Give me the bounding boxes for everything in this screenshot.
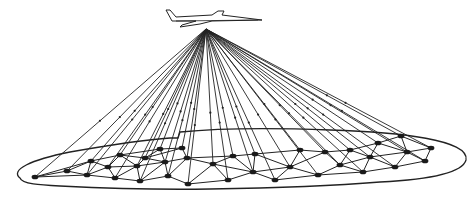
diagram-canvas — [0, 0, 473, 200]
sensor-network-diagram — [0, 0, 473, 200]
mesh-link — [325, 152, 340, 165]
ray-marker — [219, 122, 221, 124]
mesh-link — [363, 157, 370, 172]
sensor-node — [404, 150, 411, 155]
ray-marker — [234, 117, 236, 119]
sensor-node — [105, 165, 112, 170]
aircraft-fuselage — [166, 10, 262, 27]
sensor-node — [165, 174, 172, 179]
sensor-node — [88, 159, 95, 164]
signal-ray — [206, 29, 425, 161]
ray-marker — [144, 113, 146, 115]
sensor-node — [297, 148, 304, 153]
sensor-node — [337, 163, 344, 168]
ray-marker — [179, 110, 181, 112]
ray-marker — [119, 116, 121, 118]
sensor-node — [250, 170, 257, 175]
sensor-node — [179, 146, 186, 151]
ray-marker — [167, 108, 169, 110]
signal-ray — [206, 29, 290, 167]
sensor-node — [142, 156, 149, 161]
sensor-node — [64, 169, 71, 174]
aircraft-icon — [166, 10, 262, 27]
ray-marker — [235, 105, 237, 107]
mesh-link — [87, 175, 115, 178]
mesh-link — [407, 148, 431, 152]
ray-marker — [344, 102, 346, 104]
sensor-node — [428, 146, 435, 151]
ray-marker — [274, 118, 276, 120]
ray-marker — [322, 113, 324, 115]
ray-marker — [288, 112, 290, 114]
mesh-link — [188, 180, 228, 184]
ray-marker — [341, 110, 343, 112]
ray-marker — [248, 122, 250, 124]
sensor-node — [375, 141, 382, 146]
sensor-node — [322, 150, 329, 155]
ray-marker — [176, 102, 178, 104]
ray-marker — [326, 94, 328, 96]
signal-ray — [165, 29, 206, 162]
ray-marker — [209, 112, 211, 114]
sensor-node — [112, 176, 119, 181]
mesh-link — [187, 156, 233, 158]
sensor-node — [360, 170, 367, 175]
sensor-node — [117, 153, 124, 158]
sensor-node — [157, 147, 164, 152]
sensor-node — [315, 173, 322, 178]
mesh-link — [275, 175, 318, 180]
sensor-node — [32, 175, 39, 180]
mesh-link — [378, 136, 401, 143]
sensor-node — [367, 155, 374, 160]
signal-ray — [206, 29, 401, 136]
ray-marker — [307, 107, 309, 109]
ray-marker — [294, 103, 296, 105]
mesh-link — [120, 149, 160, 155]
sensor-node — [422, 159, 429, 164]
ray-marker — [312, 99, 314, 101]
sensor-node — [252, 152, 259, 157]
ray-marker — [190, 102, 192, 104]
sensor-node — [230, 154, 237, 159]
signal-ray — [206, 29, 340, 165]
mesh-link — [370, 157, 395, 167]
sensor-node — [84, 173, 91, 178]
mesh-link — [300, 150, 325, 152]
ray-marker — [131, 118, 133, 120]
sensor-node — [185, 182, 192, 187]
sensor-node — [398, 134, 405, 139]
ray-marker — [302, 117, 304, 119]
mesh-link — [108, 166, 137, 167]
ray-marker — [134, 110, 136, 112]
sensor-node — [392, 165, 399, 170]
mesh-link — [228, 172, 253, 180]
signal-ray — [206, 29, 370, 157]
mesh-link — [67, 161, 91, 171]
ray-marker — [164, 122, 166, 124]
sensor-node — [210, 162, 217, 167]
sensor-node — [347, 148, 354, 153]
sensor-node — [162, 160, 169, 165]
ray-marker — [194, 124, 196, 126]
ray-marker — [99, 120, 101, 122]
mesh-link — [253, 154, 255, 172]
mesh-link — [188, 164, 213, 184]
ray-marker — [162, 113, 164, 115]
mesh-link — [290, 167, 318, 175]
ray-marker — [193, 108, 195, 110]
mesh-link — [145, 148, 182, 158]
signal-ray — [108, 29, 206, 167]
ray-marker — [257, 113, 259, 115]
ray-marker — [222, 107, 224, 109]
mesh-link — [325, 150, 350, 152]
sensor-node — [272, 178, 279, 183]
mesh-link — [363, 167, 395, 172]
ray-marker — [181, 119, 183, 121]
sensor-node — [137, 179, 144, 184]
sensor-node — [287, 165, 294, 170]
mesh-link — [168, 176, 188, 184]
sensor-node — [225, 178, 232, 183]
mesh-link — [290, 152, 325, 167]
sensor-node — [134, 164, 141, 169]
ray-marker — [152, 106, 154, 108]
